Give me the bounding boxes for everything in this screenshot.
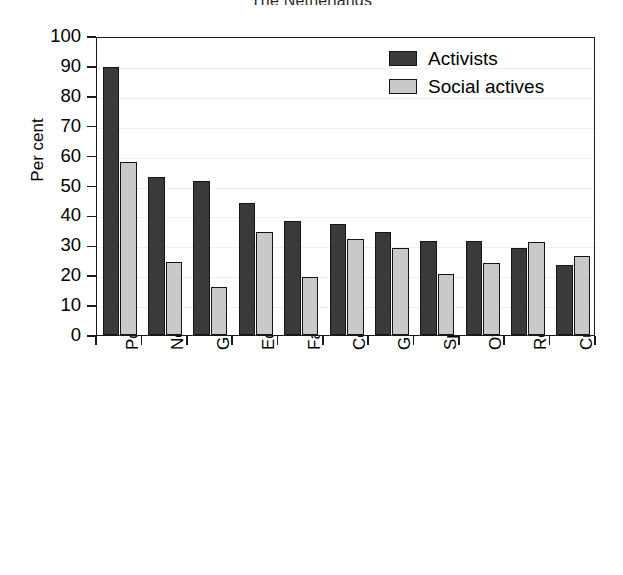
plot-area: Activists Social actives (96, 37, 595, 336)
y-tick-mark (87, 246, 96, 248)
bar (166, 262, 183, 335)
bar (375, 232, 392, 335)
gridline (97, 128, 594, 129)
y-tick-mark (87, 36, 96, 38)
y-tick-mark (87, 186, 96, 188)
gridline (97, 217, 594, 218)
legend-swatch-social-actives-icon (389, 79, 417, 94)
bar (193, 181, 210, 335)
y-tick-mark (87, 126, 96, 128)
bar (239, 203, 256, 335)
y-tick-label: 10 (35, 296, 81, 315)
gridline (97, 188, 594, 189)
chart-legend: Activists Social actives (389, 44, 544, 100)
bar (120, 162, 137, 335)
bar (556, 265, 573, 335)
legend-swatch-activists-icon (389, 51, 417, 66)
legend-label-activists: Activists (428, 49, 498, 68)
legend-label-social-actives: Social actives (428, 77, 544, 96)
y-tick-label: 90 (35, 57, 81, 76)
bar (330, 224, 347, 335)
bar (528, 242, 545, 335)
bar (347, 239, 364, 335)
bar (103, 67, 120, 335)
x-tick-mark (95, 336, 97, 345)
legend-item-social-actives: Social actives (389, 72, 544, 100)
bar (466, 241, 483, 335)
bar (211, 287, 228, 335)
chart-title: The Netherlands (0, 0, 623, 5)
bar (302, 277, 319, 335)
y-tick-mark (87, 275, 96, 277)
bar (420, 241, 437, 335)
bar (256, 232, 273, 335)
y-tick-mark (87, 96, 96, 98)
gridline (97, 158, 594, 159)
bar (392, 248, 409, 335)
bar (148, 177, 165, 335)
bar (438, 274, 455, 335)
y-tick-mark (87, 66, 96, 68)
y-tick-label: 60 (35, 147, 81, 166)
y-tick-label: 0 (35, 326, 81, 345)
bar (483, 263, 500, 335)
y-tick-label: 70 (35, 117, 81, 136)
y-tick-label: 40 (35, 206, 81, 225)
bar (284, 221, 301, 335)
y-tick-mark (87, 216, 96, 218)
y-tick-label: 100 (35, 27, 81, 46)
y-tick-label: 30 (35, 236, 81, 255)
y-tick-mark (87, 305, 96, 307)
y-tick-label: 20 (35, 266, 81, 285)
y-tick-label: 80 (35, 87, 81, 106)
y-tick-mark (87, 156, 96, 158)
legend-item-activists: Activists (389, 44, 544, 72)
y-tick-label: 50 (35, 177, 81, 196)
bar (574, 256, 591, 335)
bar (511, 248, 528, 335)
bar-chart: The Netherlands Per cent 010203040506070… (0, 0, 623, 575)
